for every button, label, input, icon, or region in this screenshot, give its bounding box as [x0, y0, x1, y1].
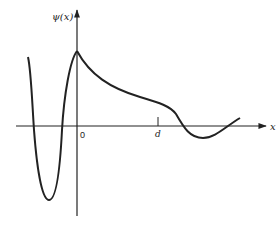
- origin-label: 0: [80, 130, 85, 140]
- x-axis-label: x: [270, 121, 276, 132]
- d-label: d: [155, 129, 161, 139]
- wavefunction-diagram: ψ(x) x 0 d: [0, 0, 280, 229]
- y-axis-label: ψ(x): [52, 11, 73, 22]
